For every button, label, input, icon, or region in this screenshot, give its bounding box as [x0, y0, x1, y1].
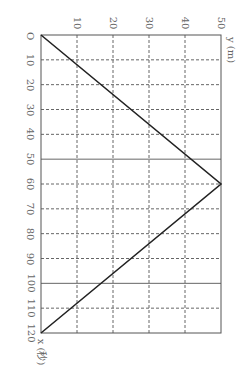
origin-label: O — [25, 32, 35, 40]
x-tick-label: 40 — [25, 128, 35, 141]
y-axis-label: y (m) — [226, 37, 236, 63]
y-tick-label: 40 — [180, 17, 190, 30]
x-tick-label: 10 — [25, 53, 35, 66]
x-tick-label: 80 — [25, 227, 35, 240]
y-tick-label: 10 — [72, 17, 82, 30]
y-tick-label: 30 — [144, 17, 154, 30]
chart-plot — [0, 0, 251, 384]
y-tick-label: 20 — [108, 17, 118, 30]
x-tick-label: 30 — [25, 103, 35, 116]
x-axis-label: x (秒) — [36, 339, 46, 366]
x-tick-label: 100 — [25, 274, 35, 293]
x-tick-label: 20 — [25, 78, 35, 91]
x-tick-label: 120 — [25, 323, 35, 342]
x-tick-label: 90 — [25, 252, 35, 265]
x-tick-label: 50 — [25, 153, 35, 166]
x-tick-label: 70 — [25, 202, 35, 215]
y-tick-label: 50 — [216, 17, 226, 30]
x-tick-label: 60 — [25, 178, 35, 191]
x-tick-label: 110 — [25, 299, 35, 318]
